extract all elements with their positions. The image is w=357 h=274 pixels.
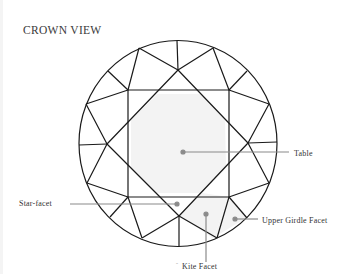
label-table: Table: [294, 149, 313, 158]
star-facet-dot: [175, 202, 179, 206]
kite-tick-mark: ˜: [176, 262, 178, 268]
label-upper-girdle-facet: Upper Girdle Facet: [262, 216, 327, 225]
table-facet: [131, 94, 226, 193]
upper-girdle-dot: [233, 217, 237, 221]
label-kite-facet: Kite Facet: [182, 262, 217, 271]
crown-view-diagram: [0, 0, 357, 274]
label-star-facet: Star-facet: [19, 199, 52, 208]
table-dot: [181, 150, 185, 154]
kite-facet-dot: [204, 212, 208, 216]
